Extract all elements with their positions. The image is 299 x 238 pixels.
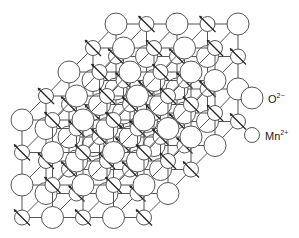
oxygen-ion <box>180 61 202 83</box>
oxygen-ion <box>119 61 141 83</box>
oxygen-ion <box>157 118 179 140</box>
crystal-lattice-diagram <box>0 0 299 238</box>
oxygen-ion <box>42 207 64 229</box>
oxygen-ion <box>66 85 88 107</box>
manganese-ion-icon <box>243 126 261 144</box>
oxygen-ion <box>174 37 196 59</box>
legend-manganese-label: Mn2+ <box>265 129 288 142</box>
legend-oxygen: O2− <box>240 86 285 110</box>
oxygen-ion <box>127 85 149 107</box>
oxygen-ion-icon <box>240 86 264 110</box>
oxygen-ion <box>204 135 226 157</box>
oxygen-ion <box>166 13 188 35</box>
oxygen-ion <box>113 37 135 59</box>
oxygen-ion <box>227 13 249 35</box>
oxygen-ion <box>103 142 125 164</box>
legend-oxygen-label: O2− <box>268 92 285 105</box>
oxygen-ion <box>105 13 127 35</box>
oxygen-ion <box>204 70 226 92</box>
oxygen-ion <box>42 142 64 164</box>
oxygen-ion <box>11 109 33 131</box>
oxygen-ion <box>180 126 202 148</box>
oxygen-ion <box>11 174 33 196</box>
oxygen-ion <box>103 207 125 229</box>
legend-manganese: Mn2+ <box>243 126 288 144</box>
oxygen-ion <box>157 183 179 205</box>
oxygen-ion <box>72 109 94 131</box>
oxygen-ion <box>72 174 94 196</box>
oxygen-ion <box>133 174 155 196</box>
oxygen-ion <box>133 109 155 131</box>
oxygen-ion <box>58 61 80 83</box>
